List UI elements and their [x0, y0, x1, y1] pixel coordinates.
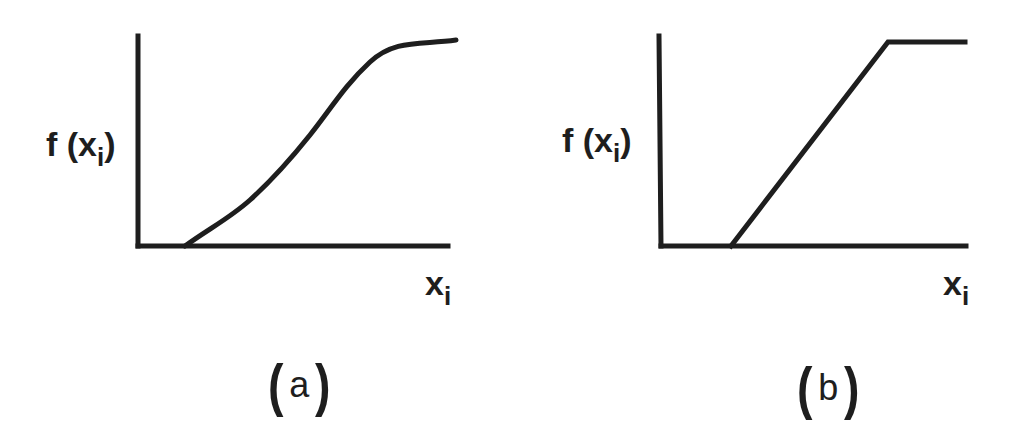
panel-b-y-label-main: f (x	[562, 121, 613, 159]
panel-b-x-label-main: x	[943, 264, 962, 302]
panel-a-x-label-main: x	[425, 264, 444, 302]
panel-a-caption: (a)	[266, 350, 333, 408]
panel-b-y-axis	[659, 36, 661, 246]
panel-b-ramp-curve	[731, 42, 965, 246]
left-paren: (	[268, 356, 283, 414]
panel-a-y-label-main: f (x	[46, 125, 97, 163]
panel-a-y-label: f (xi)	[46, 127, 116, 161]
panel-a-axes	[138, 36, 448, 246]
panel-b-caption: (b)	[795, 353, 862, 411]
panel-b-y-label: f (xi)	[562, 123, 632, 157]
right-paren: )	[844, 359, 859, 417]
panel-b-y-label-close: )	[620, 121, 631, 159]
panel-a-sigmoid-curve	[185, 40, 456, 246]
panel-a-x-label: xi	[425, 266, 451, 300]
panel-b-caption-letter: b	[814, 367, 842, 408]
panel-b-y-label-subscript: i	[613, 138, 620, 168]
panel-a-caption-letter: a	[285, 364, 313, 405]
panel-a-x-label-subscript: i	[444, 281, 451, 311]
panel-a-y-label-close: )	[104, 125, 115, 163]
left-paren: (	[797, 359, 812, 417]
panel-a-y-label-subscript: i	[97, 142, 104, 172]
panel-b-x-label: xi	[943, 266, 969, 300]
right-paren: )	[315, 356, 330, 414]
panel-b-x-label-subscript: i	[962, 281, 969, 311]
